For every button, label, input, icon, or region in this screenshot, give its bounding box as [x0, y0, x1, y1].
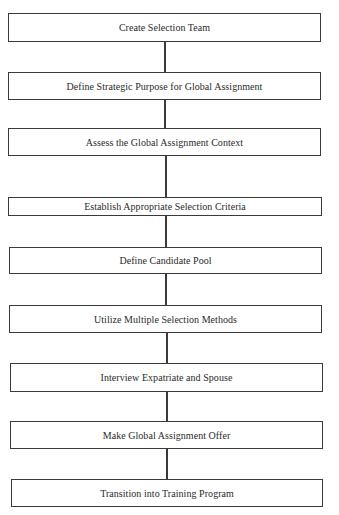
connector-8-9: [166, 449, 168, 479]
connector-6-7: [166, 333, 168, 363]
connector-2-3: [164, 100, 166, 128]
connector-5-6: [165, 274, 167, 305]
connector-7-8: [166, 392, 168, 421]
flow-step-define-candidate-pool: Define Candidate Pool: [9, 247, 322, 274]
selection-process-flowchart: Create Selection Team Define Strategic P…: [0, 0, 339, 515]
step-label: Assess the Global Assignment Context: [86, 137, 243, 148]
flow-step-assess-context: Assess the Global Assignment Context: [8, 128, 321, 156]
step-label: Transition into Training Program: [100, 488, 234, 499]
step-label: Interview Expatriate and Spouse: [101, 372, 233, 383]
flow-step-define-strategic-purpose: Define Strategic Purpose for Global Assi…: [8, 72, 321, 100]
step-label: Utilize Multiple Selection Methods: [94, 314, 237, 325]
flow-step-make-assignment-offer: Make Global Assignment Offer: [10, 421, 323, 449]
step-label: Establish Appropriate Selection Criteria: [84, 201, 246, 212]
step-label: Define Candidate Pool: [119, 255, 211, 266]
step-label: Define Strategic Purpose for Global Assi…: [67, 81, 263, 92]
flow-step-create-selection-team: Create Selection Team: [8, 13, 321, 42]
step-label: Make Global Assignment Offer: [103, 430, 231, 441]
flow-step-utilize-selection-methods: Utilize Multiple Selection Methods: [9, 305, 322, 333]
flow-step-interview-expatriate-spouse: Interview Expatriate and Spouse: [10, 363, 323, 392]
connector-3-4: [165, 156, 167, 197]
flow-step-transition-training: Transition into Training Program: [11, 479, 323, 507]
connector-4-5: [165, 216, 167, 247]
step-label: Create Selection Team: [119, 22, 210, 33]
connector-1-2: [164, 42, 166, 72]
flow-step-establish-criteria: Establish Appropriate Selection Criteria: [8, 197, 322, 216]
